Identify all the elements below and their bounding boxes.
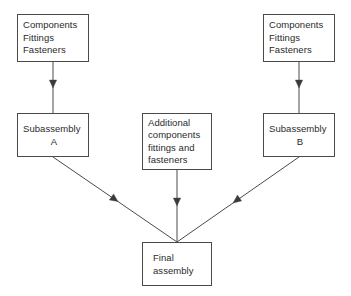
node-components-left: Components Fittings Fasteners xyxy=(17,14,89,62)
node-text: Subassembly A xyxy=(23,123,85,148)
node-subassembly-a: Subassembly A xyxy=(17,113,89,157)
node-line: Fittings xyxy=(23,32,85,45)
node-line: Components xyxy=(23,19,85,32)
node-line: fittings and xyxy=(148,142,208,155)
node-text: Final assembly xyxy=(148,252,208,277)
node-text: Components Fittings Fasteners xyxy=(269,19,331,57)
node-line: fasteners xyxy=(148,154,208,167)
node-line: components xyxy=(148,129,208,142)
edge-components-right-to-subassembly-b xyxy=(295,62,302,113)
node-line: Fasteners xyxy=(269,44,331,57)
assembly-flow-diagram: Components Fittings Fasteners Components… xyxy=(0,0,351,296)
node-components-right: Components Fittings Fasteners xyxy=(263,14,335,62)
node-line: B xyxy=(269,135,331,148)
node-line: Subassembly xyxy=(23,123,85,136)
node-line: Additional xyxy=(148,117,208,130)
node-text: Additional components fittings and faste… xyxy=(148,117,208,167)
node-text: Subassembly B xyxy=(269,123,331,148)
node-line: assembly xyxy=(148,264,208,277)
node-final-assembly: Final assembly xyxy=(142,242,212,286)
node-subassembly-b: Subassembly B xyxy=(263,113,335,157)
edge-additional-to-final-assembly xyxy=(173,170,180,242)
node-line: Final xyxy=(148,252,208,265)
node-line: Fittings xyxy=(269,32,331,45)
node-additional-components: Additional components fittings and faste… xyxy=(142,113,212,170)
edge-components-left-to-subassembly-a xyxy=(49,62,56,113)
node-line: Components xyxy=(269,19,331,32)
node-line: A xyxy=(23,135,85,148)
node-line: Subassembly xyxy=(269,123,331,136)
node-text: Components Fittings Fasteners xyxy=(23,19,85,57)
node-line: Fasteners xyxy=(23,44,85,57)
